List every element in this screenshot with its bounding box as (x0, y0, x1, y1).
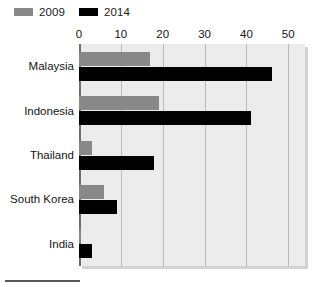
bar-2009-malaysia (79, 52, 150, 66)
bar-2009-south-korea (79, 185, 104, 199)
bar-2009-thailand (79, 141, 92, 155)
legend-swatch-2014 (79, 8, 98, 16)
category-label-malaysia: Malaysia (0, 60, 74, 72)
bar-2009-indonesia (79, 96, 159, 110)
chart-legend: 2009 2014 (14, 5, 130, 19)
legend-label-2009: 2009 (39, 6, 65, 18)
bar-2014-south-korea (79, 200, 117, 214)
x-tick-label-50: 50 (282, 28, 295, 40)
legend-entry-2014: 2014 (79, 6, 130, 18)
category-label-thailand: Thailand (0, 149, 74, 161)
bar-2014-india (79, 244, 92, 258)
legend-swatch-2009 (14, 8, 33, 16)
bar-chart: 2009 2014 MalaysiaIndonesiaThailandSouth… (0, 0, 324, 287)
x-tick-label-40: 40 (240, 28, 253, 40)
x-tick-label-10: 10 (114, 28, 127, 40)
legend-label-2014: 2014 (104, 6, 130, 18)
bar-2009-india (79, 229, 81, 243)
bar-2014-thailand (79, 156, 154, 170)
category-label-indonesia: Indonesia (0, 105, 74, 117)
footer-rule (5, 280, 80, 282)
category-label-india: India (0, 238, 74, 250)
category-axis: MalaysiaIndonesiaThailandSouth KoreaIndi… (0, 44, 74, 266)
gridline-50 (288, 44, 289, 266)
x-tick-label-30: 30 (198, 28, 211, 40)
x-tick-label-20: 20 (156, 28, 169, 40)
category-label-south-korea: South Korea (0, 193, 74, 205)
bar-2014-malaysia (79, 67, 272, 81)
x-tick-label-0: 0 (76, 28, 82, 40)
plot-area (79, 44, 305, 266)
legend-entry-2009: 2009 (14, 6, 65, 18)
bar-2014-indonesia (79, 111, 251, 125)
